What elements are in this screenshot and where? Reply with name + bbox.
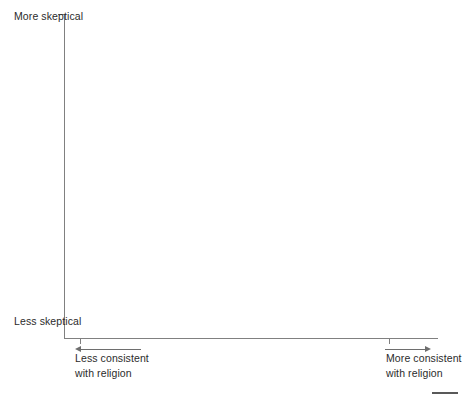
- y-axis-label-top-line2: skeptical: [41, 10, 83, 22]
- y-axis-line: [64, 14, 65, 339]
- x-axis-line: [64, 338, 438, 339]
- x-axis-caption-left: Less consistent with religion: [75, 351, 149, 381]
- arrow-left-shaft: [80, 349, 141, 350]
- x-axis-caption-left-line1: Less consistent: [75, 351, 149, 366]
- x-axis-caption-right-line2: with religion: [386, 366, 462, 381]
- x-axis-caption-right-line1: More consistent: [386, 351, 462, 366]
- x-axis-tick-left: [80, 339, 81, 344]
- y-axis-label-bottom-line2: skeptical: [40, 315, 82, 327]
- x-axis-caption-left-line2: with religion: [75, 366, 149, 381]
- x-axis-caption-right: More consistent with religion: [386, 351, 462, 381]
- arrow-right-shaft: [385, 349, 426, 350]
- y-axis-label-top-line1: More: [14, 10, 38, 22]
- y-axis-label-bottom-line1: Less: [14, 315, 37, 327]
- y-axis-label-bottom: Less skeptical: [14, 314, 81, 329]
- y-axis-label-top: More skeptical: [14, 9, 83, 24]
- x-axis-tick-right: [389, 339, 390, 344]
- footer-rule: [432, 392, 458, 394]
